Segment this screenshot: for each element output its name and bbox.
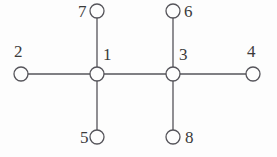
graph-node-label-1: 1 [103,46,112,63]
graph-node-4[interactable] [246,67,260,81]
graph-node-6[interactable] [166,4,180,18]
graph-node-label-3: 3 [179,46,188,63]
graph-node-5[interactable] [90,130,104,144]
graph-canvas [0,0,277,157]
graph-node-8[interactable] [166,130,180,144]
graph-node-label-2: 2 [14,43,23,60]
graph-node-label-8: 8 [185,129,194,146]
graph-node-3[interactable] [166,67,180,81]
graph-node-7[interactable] [90,4,104,18]
graph-node-label-5: 5 [80,129,89,146]
edge-layer [21,11,253,137]
graph-node-label-6: 6 [184,3,193,20]
graph-node-2[interactable] [14,67,28,81]
graph-figure: 12345678 [0,0,277,157]
graph-node-1[interactable] [90,67,104,81]
graph-node-label-4: 4 [247,43,256,60]
graph-node-label-7: 7 [78,3,87,20]
